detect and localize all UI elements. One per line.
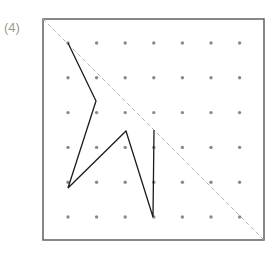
grid-dot xyxy=(124,76,127,79)
grid-dot xyxy=(66,76,69,79)
grid-dot xyxy=(209,181,212,184)
grid-dot xyxy=(95,41,98,44)
grid-dot xyxy=(124,111,127,114)
grid-dot xyxy=(95,111,98,114)
grid-dot xyxy=(66,215,69,218)
grid-dot xyxy=(181,146,184,149)
grid-dot xyxy=(238,41,241,44)
grid-dot xyxy=(95,181,98,184)
grid-dot xyxy=(238,215,241,218)
grid-dot xyxy=(238,181,241,184)
grid-dot xyxy=(181,181,184,184)
grid-dot xyxy=(124,146,127,149)
grid-dot xyxy=(66,146,69,149)
grid-dot xyxy=(152,76,155,79)
grid-dot xyxy=(238,76,241,79)
grid-dot xyxy=(95,146,98,149)
grid-dot xyxy=(238,146,241,149)
grid-dot xyxy=(95,215,98,218)
grid-dot xyxy=(124,41,127,44)
grid-dot xyxy=(152,111,155,114)
geoboard-diagram xyxy=(0,0,279,260)
grid-dot xyxy=(209,215,212,218)
grid-dot xyxy=(124,215,127,218)
grid-dot xyxy=(181,41,184,44)
grid-dot xyxy=(66,111,69,114)
grid-dot xyxy=(124,181,127,184)
grid-dot xyxy=(181,76,184,79)
grid-dot xyxy=(238,111,241,114)
grid-dot xyxy=(209,111,212,114)
figure-container: (4) xyxy=(0,0,279,260)
grid-dot xyxy=(152,41,155,44)
grid-dot xyxy=(181,111,184,114)
grid-dot xyxy=(181,215,184,218)
grid-dot xyxy=(209,146,212,149)
grid-dot xyxy=(209,76,212,79)
grid-dot xyxy=(209,41,212,44)
grid-dot xyxy=(95,76,98,79)
